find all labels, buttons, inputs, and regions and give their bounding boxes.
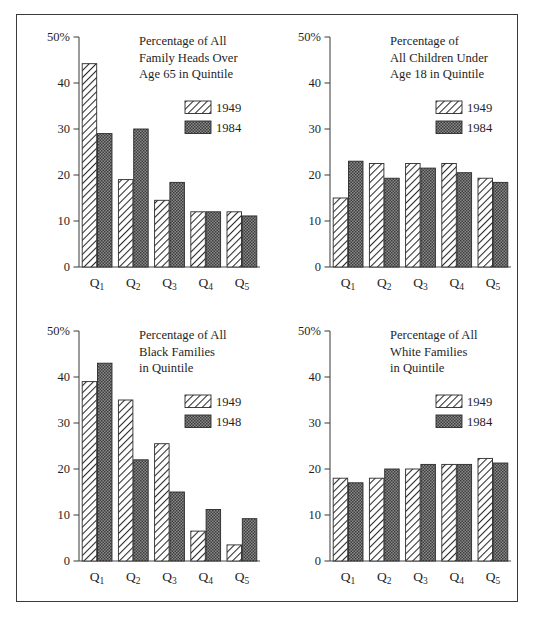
bar-Q5-1949 (478, 178, 493, 267)
bar-Q4-1984 (457, 173, 472, 267)
legend-swatch-1949 (436, 395, 462, 408)
bar-Q5-1949 (227, 545, 242, 561)
bar-Q4-1949 (442, 464, 457, 561)
legend-swatch-1984 (185, 121, 211, 134)
chart-svg-bottom-right: 50%403020100Q1Q2Q3Q4Q5Percentage of AllW… (268, 309, 519, 603)
bar-Q5-1949 (478, 458, 493, 561)
y-tick-label: 20 (309, 462, 322, 476)
bar-Q1-1984 (349, 483, 364, 561)
chart-title-line: in Quintile (139, 361, 194, 375)
x-category-label: Q5 (235, 275, 250, 292)
x-category-label: Q4 (198, 275, 213, 292)
x-category-label: Q2 (126, 275, 141, 292)
legend-swatch-1948 (185, 415, 211, 428)
y-tick-label: 30 (309, 416, 322, 430)
chart-title-line: Black Families (139, 345, 215, 359)
chart-svg-top-left: 50%403020100Q1Q2Q3Q4Q5Percentage of AllF… (17, 15, 268, 309)
x-category-label: Q1 (341, 569, 356, 586)
bar-Q2-1949 (118, 180, 132, 267)
y-tick-label: 10 (309, 214, 322, 228)
charts-grid: 50%403020100Q1Q2Q3Q4Q5Percentage of AllF… (17, 15, 517, 601)
bar-Q3-1949 (406, 164, 421, 268)
x-category-label: Q1 (90, 275, 105, 292)
bar-Q3-1949 (155, 200, 170, 267)
bar-Q2-1984 (385, 469, 400, 561)
bar-Q2-1949 (369, 164, 384, 268)
x-category-label: Q3 (162, 275, 177, 292)
bar-Q2-1948 (134, 460, 149, 561)
y-tick-label: 40 (58, 76, 71, 90)
legend-label-1949: 1949 (467, 101, 492, 115)
bar-Q1-1984 (349, 161, 364, 267)
y-tick-label: 50% (298, 324, 321, 338)
bar-Q3-1948 (170, 492, 185, 561)
legend-label-1984: 1984 (467, 415, 493, 429)
y-tick-label: 30 (309, 122, 322, 136)
bar-Q1-1984 (98, 134, 113, 267)
chart-panel-bottom-left: 50%403020100Q1Q2Q3Q4Q5Percentage of AllB… (17, 309, 268, 603)
chart-title-line: Percentage of All (139, 328, 227, 342)
x-category-label: Q2 (126, 569, 141, 586)
x-category-label: Q1 (90, 569, 105, 586)
chart-svg-bottom-left: 50%403020100Q1Q2Q3Q4Q5Percentage of AllB… (17, 309, 268, 603)
legend-label-1984: 1984 (216, 121, 242, 135)
y-tick-label: 40 (309, 370, 322, 384)
x-category-label: Q4 (449, 569, 464, 586)
y-tick-label: 50% (47, 30, 70, 44)
bar-Q4-1949 (442, 164, 457, 268)
x-category-label: Q5 (486, 275, 501, 292)
bar-Q4-1949 (191, 531, 206, 561)
bar-Q1-1948 (98, 363, 113, 561)
page-top-artifact-strip (0, 0, 534, 8)
chart-title-line: in Quintile (390, 361, 445, 375)
legend-swatch-1984 (436, 121, 462, 134)
bar-Q4-1984 (206, 212, 221, 267)
bar-Q1-1949 (333, 198, 348, 267)
bar-Q3-1984 (170, 182, 185, 267)
x-category-label: Q2 (377, 275, 392, 292)
x-category-label: Q3 (162, 569, 177, 586)
y-tick-label: 0 (64, 554, 70, 568)
y-tick-label: 50% (298, 30, 321, 44)
x-category-label: Q3 (413, 569, 428, 586)
legend-swatch-1949 (436, 101, 462, 114)
y-tick-label: 0 (64, 260, 70, 274)
chart-panel-top-right: 50%403020100Q1Q2Q3Q4Q5Percentage ofAll C… (268, 15, 519, 309)
bar-Q2-1984 (134, 129, 149, 267)
bar-Q1-1949 (82, 382, 97, 561)
chart-panel-top-left: 50%403020100Q1Q2Q3Q4Q5Percentage of AllF… (17, 15, 268, 309)
bar-Q3-1949 (155, 444, 170, 561)
chart-title-line: Age 18 in Quintile (390, 67, 485, 81)
y-tick-label: 10 (58, 214, 71, 228)
y-tick-label: 10 (58, 508, 71, 522)
legend-label-1949: 1949 (216, 101, 241, 115)
bar-Q5-1984 (493, 182, 508, 267)
bar-Q2-1949 (369, 478, 384, 561)
chart-title-line: Family Heads Over (139, 51, 238, 65)
bar-Q4-1949 (191, 212, 206, 267)
y-tick-label: 10 (309, 508, 322, 522)
y-tick-label: 20 (58, 168, 71, 182)
x-category-label: Q2 (377, 569, 392, 586)
legend-label-1948: 1948 (216, 415, 241, 429)
chart-title-line: Percentage of All (390, 328, 478, 342)
x-category-label: Q5 (486, 569, 501, 586)
bar-Q3-1984 (421, 464, 436, 561)
legend-label-1949: 1949 (467, 395, 492, 409)
x-category-label: Q4 (198, 569, 213, 586)
y-tick-label: 30 (58, 416, 71, 430)
bar-Q5-1984 (242, 216, 256, 267)
chart-svg-top-right: 50%403020100Q1Q2Q3Q4Q5Percentage ofAll C… (268, 15, 519, 309)
chart-title-line: Age 65 in Quintile (139, 67, 234, 81)
chart-panel-bottom-right: 50%403020100Q1Q2Q3Q4Q5Percentage of AllW… (268, 309, 519, 603)
bar-Q1-1949 (333, 478, 348, 561)
chart-title-line: Percentage of All (139, 34, 227, 48)
legend-swatch-1949 (185, 101, 211, 114)
y-tick-label: 0 (315, 260, 321, 274)
bar-Q2-1949 (118, 400, 132, 561)
bar-Q4-1948 (206, 509, 221, 561)
chart-title-line: White Families (390, 345, 467, 359)
legend-label-1949: 1949 (216, 395, 241, 409)
y-tick-label: 40 (58, 370, 71, 384)
x-category-label: Q4 (449, 275, 464, 292)
